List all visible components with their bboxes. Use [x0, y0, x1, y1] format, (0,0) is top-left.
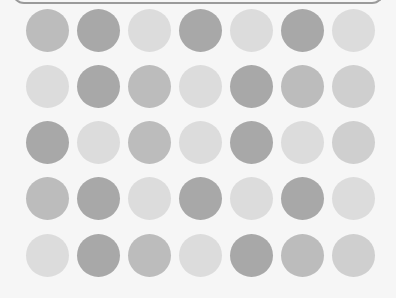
circle-dot [281, 65, 324, 108]
circle-dot [179, 121, 222, 164]
circle-dot [128, 65, 171, 108]
circle-dot [26, 9, 69, 52]
circle-dot [128, 9, 171, 52]
circle-dot [179, 65, 222, 108]
circle-dot [128, 234, 171, 277]
circle-dot [26, 65, 69, 108]
circle-dot [230, 177, 273, 220]
circle-dot [179, 9, 222, 52]
circle-dot [179, 234, 222, 277]
circle-dot [128, 121, 171, 164]
circle-dot [230, 65, 273, 108]
circle-dot [26, 177, 69, 220]
circle-dot [230, 234, 273, 277]
circle-dot [230, 9, 273, 52]
circle-dot [26, 121, 69, 164]
circle-dot [77, 234, 120, 277]
circle-dot [128, 177, 171, 220]
circle-dot [332, 234, 375, 277]
circle-dot [281, 9, 324, 52]
circle-dot [77, 177, 120, 220]
circle-dot [332, 65, 375, 108]
circle-dot [230, 121, 273, 164]
dot-grid [0, 0, 396, 298]
circle-dot [281, 177, 324, 220]
circle-dot [332, 9, 375, 52]
circle-dot [332, 121, 375, 164]
circle-dot [77, 121, 120, 164]
circle-dot [281, 121, 324, 164]
circle-dot [77, 9, 120, 52]
circle-dot [179, 177, 222, 220]
circle-dot [77, 65, 120, 108]
circle-dot [281, 234, 324, 277]
circle-dot [332, 177, 375, 220]
circle-dot [26, 234, 69, 277]
